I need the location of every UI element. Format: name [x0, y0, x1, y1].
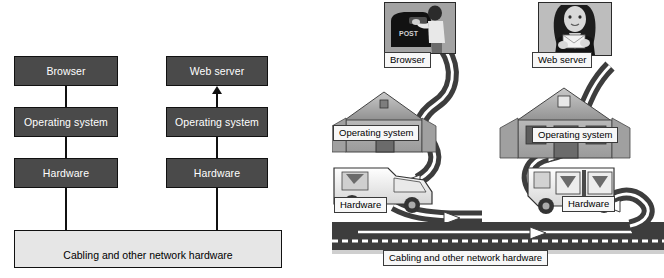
caption-client-hardware: Hardware — [334, 197, 387, 213]
block-client-operating-system-label: Operating system — [24, 116, 108, 128]
caption-browser: Browser — [384, 52, 431, 68]
caption-server-operating-system-label: Operating system — [538, 129, 612, 140]
block-browser: Browser — [14, 56, 118, 86]
connector-os-to-hardware-server — [216, 137, 218, 158]
block-browser-label: Browser — [46, 65, 85, 77]
block-server-operating-system: Operating system — [166, 107, 268, 137]
caption-client-hardware-label: Hardware — [340, 199, 381, 210]
postal-analogy-diagram: POST — [332, 0, 664, 278]
caption-server-hardware-label: Hardware — [568, 198, 609, 209]
browser-photo: POST — [384, 2, 456, 54]
connector-browser-to-os — [65, 86, 67, 107]
caption-cabling-label: Cabling and other network hardware — [389, 252, 542, 263]
layered-block-diagram: Browser Operating system Hardware Web se… — [0, 0, 300, 278]
block-server-hardware: Hardware — [166, 158, 268, 188]
block-server-hardware-label: Hardware — [194, 167, 240, 179]
caption-server-hardware: Hardware — [562, 196, 615, 212]
block-web-server: Web server — [166, 56, 268, 86]
caption-server-operating-system: Operating system — [532, 127, 618, 143]
block-web-server-label: Web server — [190, 65, 245, 77]
block-client-hardware-label: Hardware — [43, 167, 89, 179]
connector-webserver-to-os — [216, 94, 218, 107]
woman-with-envelope-icon — [539, 3, 611, 55]
caption-client-operating-system: Operating system — [333, 125, 419, 141]
caption-web-server-label: Web server — [538, 54, 586, 65]
block-cabling-and-network-hardware: Cabling and other network hardware — [14, 230, 282, 268]
block-server-operating-system-label: Operating system — [175, 116, 259, 128]
caption-client-operating-system-label: Operating system — [339, 127, 413, 138]
connector-os-to-hardware — [65, 137, 67, 158]
block-client-operating-system: Operating system — [14, 107, 118, 137]
svg-text:POST: POST — [399, 30, 419, 37]
caption-cabling-and-network-hardware: Cabling and other network hardware — [383, 250, 548, 266]
caption-web-server: Web server — [532, 52, 592, 68]
server-house-illustration — [500, 88, 630, 158]
block-cabling-label: Cabling and other network hardware — [63, 237, 232, 261]
caption-browser-label: Browser — [390, 54, 425, 65]
figure-root: Browser Operating system Hardware Web se… — [0, 0, 664, 278]
mailbox-scene-icon: POST — [385, 3, 455, 53]
client-house-illustration — [332, 92, 436, 152]
arrow-up-icon — [212, 86, 222, 94]
web-server-photo — [538, 2, 612, 56]
block-client-hardware: Hardware — [14, 158, 118, 188]
